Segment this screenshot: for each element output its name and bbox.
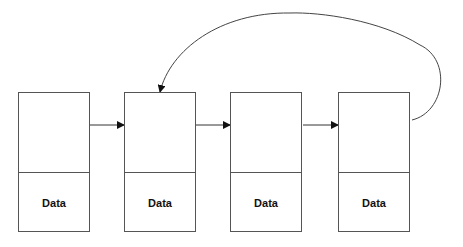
node-data-label: Data (125, 173, 195, 232)
node-data-label: Data (339, 173, 409, 232)
node-pointer-cell (19, 93, 89, 173)
list-node-1: Data (18, 92, 90, 232)
node-pointer-cell (231, 93, 301, 173)
node-data-label: Data (19, 173, 89, 232)
node-pointer-cell (339, 93, 409, 173)
node-pointer-cell (125, 93, 195, 173)
list-node-3: Data (230, 92, 302, 232)
node-data-label: Data (231, 173, 301, 232)
list-node-4: Data (338, 92, 410, 232)
list-node-2: Data (124, 92, 196, 232)
